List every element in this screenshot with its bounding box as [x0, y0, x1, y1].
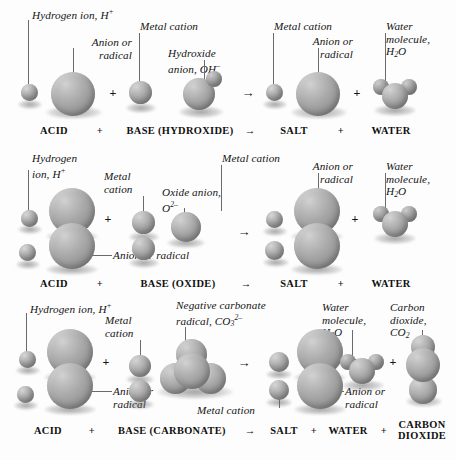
label-line-2: ion, H+ [32, 165, 77, 180]
operator-plus-2-r1: + [350, 86, 364, 101]
caption-acid-r3: ACID [20, 425, 76, 437]
label-line-1: Water [322, 301, 366, 314]
label-text: O [162, 201, 170, 213]
label-line-1: Anion or [55, 36, 132, 49]
label-base-oxide-r2: Oxide anion, O2– [162, 186, 221, 214]
caption-salt-r3: SALT [262, 425, 306, 437]
sphere-shadow [263, 100, 287, 109]
superscript: – [216, 61, 220, 70]
caption-water-r3: WATER [320, 425, 376, 437]
sphere-salt-anion-r1 [296, 72, 340, 116]
leader-line-acid-hydrogen-r2 [28, 170, 29, 212]
label-line-1: Water [386, 20, 430, 33]
label-line-2: radical [287, 173, 353, 186]
label-line-2: radical [345, 398, 385, 411]
leader-line-salt-metal-r2 [221, 165, 222, 211]
leader-line-salt-metal-r1 [273, 33, 274, 84]
caption-base-r1: BASE (HYDROXIDE) [116, 125, 244, 137]
sphere-hydroxide-hydrogen-r1 [206, 71, 222, 87]
superscript: + [107, 301, 112, 310]
sphere-salt-metal-cation-top-r3 [269, 352, 289, 372]
operator-plus-1-r2: + [101, 212, 115, 227]
sphere-metal-cation-r1 [129, 81, 152, 104]
caption-plus-1-r2: + [88, 278, 112, 290]
label-line-2: O2– [162, 199, 221, 214]
label-line-1: Water [386, 160, 430, 173]
caption-arrow-r3: → [240, 425, 260, 437]
operator-plus-1-r1: + [106, 86, 120, 101]
caption-plus-1-r1: + [88, 125, 112, 137]
label-line-1: Anion or [287, 160, 353, 173]
caption-plus-3-r3: + [376, 425, 392, 437]
sphere-hydrogen-ion-top-r3 [19, 351, 36, 368]
label-line-1: Negative carbonate [176, 299, 266, 312]
sphere-hydrogen-ion-top-r2 [21, 210, 38, 227]
caption-arrow-r2: → [236, 278, 256, 290]
label-line-3: H2O [386, 185, 430, 201]
operator-plus-1-r3: + [99, 355, 113, 370]
superscript: + [61, 166, 66, 175]
sphere-water-oxygen-r3 [349, 358, 375, 384]
label-water-molecule-r2: Water molecule, H2O [386, 160, 430, 201]
superscript: 2– [234, 313, 242, 322]
sphere-water-oxygen-r1 [382, 83, 408, 109]
sphere-salt-metal-cation-bottom-r3 [269, 380, 289, 400]
caption-plus-1-r3: + [82, 425, 102, 437]
label-line-2: cation [105, 327, 134, 340]
caption-plus-2-r1: + [330, 125, 352, 137]
label-line-1: Hydroxide [168, 47, 220, 60]
sphere-hydrogen-ion-bottom-r3 [17, 386, 34, 403]
operator-arrow-r2: → [236, 224, 252, 240]
label-line-2: radical [287, 48, 353, 61]
label-line-3: H2O [386, 45, 430, 61]
sphere-shadow [263, 227, 287, 236]
sphere-metal-cation-top-r2 [132, 211, 155, 234]
sphere-shadow [18, 100, 42, 109]
sphere-water-oxygen-r2 [382, 211, 408, 237]
sphere-hydrogen-ion-r1 [21, 84, 38, 101]
sphere-metal-cation-bottom-r2 [132, 237, 155, 260]
sphere-metal-cation-top-r3 [129, 355, 151, 377]
label-salt-anion-r2: Anion or radical [287, 160, 353, 185]
label-water-molecule-r1: Water molecule, H2O [386, 20, 430, 61]
label-salt-metal-cation-r3: Metal cation [197, 404, 255, 417]
label-acid-hydrogen-r2: Hydrogen ion, H+ [32, 152, 77, 180]
operator-arrow-r1: → [240, 85, 256, 101]
label-acid-hydrogen-r1: Hydrogen ion, H+ [32, 6, 114, 21]
caption-line-1: CARBON [392, 419, 452, 430]
sphere-oxide-anion-r2 [171, 212, 201, 242]
leader-line-base-metal-r1 [139, 33, 140, 84]
label-base-metal-cation-r1: Metal cation [140, 20, 198, 33]
label-text: H [386, 185, 394, 197]
neutralization-diagram: Hydrogen ion, H+ Anion or radical Metal … [0, 0, 456, 460]
sphere-salt-anion-bottom-r3 [297, 363, 343, 409]
sphere-salt-anion-bottom-r2 [294, 223, 340, 269]
label-line-2: cation [104, 183, 133, 196]
sphere-shadow [16, 260, 40, 269]
label-line-2: radical, CO32– [176, 312, 266, 331]
caption-water-r2: WATER [358, 278, 424, 290]
sphere-shadow [126, 103, 156, 113]
caption-plus-2-r2: + [330, 278, 352, 290]
sphere-anion-r1 [51, 72, 95, 116]
operator-arrow-r3: → [236, 355, 252, 371]
operator-plus-3-r3: + [386, 355, 400, 370]
sphere-anion-bottom-r3 [47, 363, 93, 409]
superscript: 2– [170, 200, 178, 209]
sphere-carbonate-carbon-r3 [174, 353, 210, 389]
operator-plus-2-r2: + [348, 212, 362, 227]
label-line-1: Metal [105, 314, 134, 327]
label-text: Hydrogen ion, H [30, 303, 107, 315]
leader-line-acid-hydrogen-r1 [28, 20, 29, 84]
label-line-1: Anion or [287, 35, 353, 48]
label-salt-anion-r1: Anion or radical [287, 35, 353, 60]
sphere-co2-carbon-r3 [406, 348, 440, 382]
caption-base-r2: BASE (OXIDE) [118, 278, 238, 290]
label-salt-metal-cation-r1: Metal cation [274, 20, 332, 33]
label-acid-hydrogen-r3: Hydrogen ion, H+ [30, 300, 112, 315]
label-text: O [398, 45, 406, 57]
label-line-2: molecule, [386, 33, 430, 46]
label-text: ion, H [32, 167, 61, 179]
subscript: 2 [406, 331, 410, 340]
label-text: Hydrogen ion, H [32, 9, 109, 21]
